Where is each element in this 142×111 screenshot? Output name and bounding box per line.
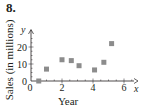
y-tick-label: 0 — [22, 76, 27, 87]
data-point-marker — [69, 58, 74, 63]
x-tick-label: 4 — [91, 82, 96, 93]
data-point-marker — [36, 79, 41, 84]
y-tick-label: 10 — [17, 59, 27, 70]
data-point-marker — [77, 63, 82, 68]
data-point-marker — [109, 41, 114, 46]
scatter-plot: 024601020xy — [0, 0, 142, 111]
data-point-marker — [101, 60, 106, 65]
y-tick-label: 20 — [17, 42, 27, 53]
data-point-marker — [92, 67, 97, 72]
x-tick-label: 6 — [122, 82, 127, 93]
x-tick-label: 2 — [60, 82, 65, 93]
y-axis-variable: y — [20, 24, 26, 35]
x-axis-variable: x — [133, 83, 139, 94]
x-tick-label: 0 — [28, 82, 33, 93]
data-point-marker — [44, 67, 49, 72]
data-point-marker — [60, 57, 65, 62]
